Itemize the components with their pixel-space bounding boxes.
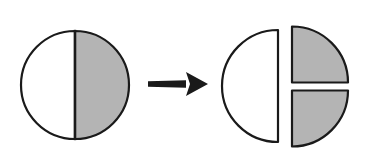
- arrow-shaft: [148, 80, 186, 87]
- fraction-diagram: [0, 0, 373, 161]
- diagram-canvas: Whole circle divided in half, then the s…: [0, 0, 373, 161]
- left-whole-circle-group: [21, 31, 129, 139]
